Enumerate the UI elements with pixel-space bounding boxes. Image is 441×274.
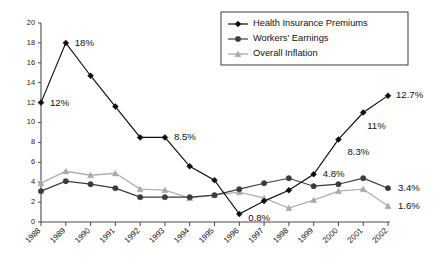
y-tick-label: 12 — [27, 98, 35, 107]
data-point-marker — [137, 194, 142, 199]
data-point-label: 1.6% — [398, 200, 420, 211]
x-axis: 1988198919901991199219931994199519961997… — [23, 222, 390, 245]
data-point-marker — [286, 176, 291, 181]
data-point-marker — [237, 186, 242, 191]
y-tick-label: 4 — [31, 177, 35, 186]
x-tick-label: 1998 — [271, 226, 290, 245]
line-chart: 02468101214161820 1988198919901991199219… — [0, 0, 441, 274]
data-point-label: 0.8% — [248, 212, 270, 223]
data-point-label: 12% — [50, 97, 70, 108]
y-tick-label: 8 — [31, 137, 35, 146]
data-point-label: 8.5% — [174, 131, 196, 142]
x-tick-label: 1996 — [222, 226, 241, 245]
y-tick-label: 2 — [31, 197, 35, 206]
legend-label: Workers' Earnings — [253, 33, 329, 43]
data-point-label: 18% — [75, 37, 95, 48]
data-point-marker — [38, 100, 44, 106]
legend-label: Health Insurance Premiums — [253, 18, 368, 28]
data-point-marker — [235, 36, 240, 41]
y-tick-label: 14 — [27, 78, 35, 87]
data-point-marker — [113, 185, 118, 190]
data-point-marker — [162, 194, 167, 199]
x-tick-label: 2000 — [321, 226, 340, 245]
data-point-label: 3.4% — [398, 182, 420, 193]
legend-label: Overall Inflation — [253, 48, 318, 58]
data-point-marker — [311, 183, 316, 188]
x-tick-label: 1993 — [147, 226, 166, 245]
chart-legend: Health Insurance PremiumsWorkers' Earnin… — [221, 12, 408, 65]
x-tick-label: 1997 — [247, 226, 266, 245]
data-point-label: 12.7% — [396, 89, 424, 100]
data-point-label: 11% — [367, 120, 386, 131]
data-point-label: 8.3% — [347, 146, 369, 157]
x-tick-label: 1989 — [48, 226, 67, 245]
y-tick-label: 6 — [31, 157, 35, 166]
x-tick-label: 1995 — [197, 226, 216, 245]
x-tick-label: 1992 — [123, 226, 142, 245]
y-tick-label: 0 — [31, 217, 35, 226]
x-tick-label: 1988 — [23, 226, 42, 245]
data-point-marker — [212, 192, 217, 197]
data-point-marker — [286, 187, 292, 193]
y-tick-label: 16 — [27, 58, 35, 67]
y-tick-label: 20 — [27, 18, 35, 27]
x-tick-label: 1999 — [296, 226, 315, 245]
x-tick-label: 1991 — [98, 226, 117, 245]
x-tick-label: 1994 — [172, 226, 191, 245]
data-point-marker — [38, 180, 44, 186]
y-axis: 02468101214161820 — [27, 18, 41, 226]
x-tick-label: 2002 — [370, 226, 389, 245]
x-tick-label: 1990 — [73, 226, 92, 245]
data-point-marker — [361, 176, 366, 181]
y-tick-label: 18 — [27, 38, 35, 47]
data-point-marker — [187, 194, 192, 199]
data-point-label: 4.8% — [323, 168, 345, 179]
data-point-marker — [261, 180, 266, 185]
x-tick-label: 2001 — [346, 226, 365, 245]
chart-container: 02468101214161820 1988198919901991199219… — [0, 0, 441, 274]
series-layer — [38, 40, 391, 217]
data-point-marker — [88, 181, 93, 186]
data-point-marker — [385, 185, 390, 190]
y-tick-label: 10 — [27, 117, 35, 126]
data-point-marker — [336, 181, 341, 186]
data-point-marker — [38, 188, 43, 193]
data-point-marker — [63, 179, 68, 184]
